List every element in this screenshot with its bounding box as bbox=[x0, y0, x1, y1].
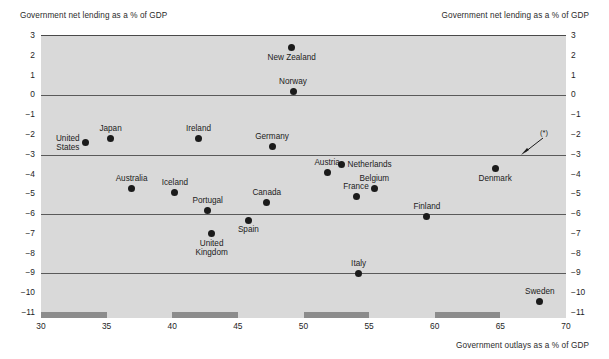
y-axis-caption-left: Government net lending as a % of GDP bbox=[20, 11, 167, 20]
y-tick-right--10: −10 bbox=[571, 288, 597, 296]
footnote-marker: (*) bbox=[540, 128, 548, 137]
data-point-label: Finland bbox=[413, 202, 440, 211]
y-axis-caption-right: Government net lending as a % of GDP bbox=[442, 11, 589, 20]
y-tick-left--5: −5 bbox=[9, 189, 35, 197]
y-tick-right--7: −7 bbox=[571, 229, 597, 237]
y-tick-left--2: −2 bbox=[9, 130, 35, 138]
data-point[interactable] bbox=[171, 189, 178, 196]
data-point[interactable] bbox=[324, 169, 331, 176]
axis-band-segment-0 bbox=[41, 312, 107, 318]
y-tick-left--10: −10 bbox=[9, 288, 35, 296]
data-point-label: Austria bbox=[314, 158, 339, 167]
data-point[interactable] bbox=[371, 185, 378, 192]
gridline--3 bbox=[41, 155, 566, 156]
y-tick-right--11: −11 bbox=[571, 308, 597, 316]
data-point-label: Spain bbox=[238, 225, 259, 234]
data-point-label: Norway bbox=[279, 77, 307, 86]
data-point-label: Iceland bbox=[162, 178, 188, 187]
data-point[interactable] bbox=[107, 135, 114, 142]
x-tick-30: 30 bbox=[26, 322, 56, 330]
axis-band-segment-2 bbox=[304, 312, 370, 318]
data-point[interactable] bbox=[128, 185, 135, 192]
y-tick-right--2: −2 bbox=[571, 130, 597, 138]
y-tick-left--11: −11 bbox=[9, 308, 35, 316]
data-point[interactable] bbox=[263, 199, 270, 206]
footnote-arrow-icon bbox=[519, 137, 545, 157]
plot-area: UnitedStatesJapanAustraliaIcelandIreland… bbox=[41, 35, 566, 312]
y-tick-left-0: 0 bbox=[9, 90, 35, 98]
data-point[interactable] bbox=[423, 213, 430, 220]
data-point-label: Portugal bbox=[192, 196, 223, 205]
data-point-label: UnitedStates bbox=[56, 134, 80, 153]
data-point[interactable] bbox=[355, 270, 362, 277]
x-tick-65: 65 bbox=[485, 322, 515, 330]
data-point-label: New Zealand bbox=[268, 53, 316, 62]
data-point[interactable] bbox=[492, 165, 499, 172]
data-point-label: Netherlands bbox=[348, 160, 392, 169]
data-point[interactable] bbox=[288, 44, 295, 51]
data-point-label: Japan bbox=[99, 124, 121, 133]
y-tick-left--9: −9 bbox=[9, 268, 35, 276]
y-tick-right-1: 1 bbox=[571, 71, 597, 79]
x-tick-35: 35 bbox=[92, 322, 122, 330]
data-point-label: Australia bbox=[116, 174, 148, 183]
scatter-chart: Government net lending as a % of GDP Gov… bbox=[0, 0, 609, 359]
y-tick-right-2: 2 bbox=[571, 51, 597, 59]
y-tick-right-0: 0 bbox=[571, 90, 597, 98]
y-tick-right--3: −3 bbox=[571, 150, 597, 158]
y-tick-left--8: −8 bbox=[9, 249, 35, 257]
y-tick-right--5: −5 bbox=[571, 189, 597, 197]
x-tick-40: 40 bbox=[157, 322, 187, 330]
data-point-label: Denmark bbox=[479, 174, 512, 183]
data-point-label: Belgium bbox=[360, 174, 390, 183]
x-tick-50: 50 bbox=[289, 322, 319, 330]
data-point[interactable] bbox=[82, 139, 89, 146]
y-tick-right--9: −9 bbox=[571, 268, 597, 276]
axis-band-segment-3 bbox=[435, 312, 501, 318]
y-tick-left--4: −4 bbox=[9, 170, 35, 178]
x-tick-70: 70 bbox=[551, 322, 581, 330]
data-point-label: Canada bbox=[252, 188, 281, 197]
y-tick-left-2: 2 bbox=[9, 51, 35, 59]
y-tick-left--7: −7 bbox=[9, 229, 35, 237]
data-point-label: Ireland bbox=[186, 124, 211, 133]
data-point[interactable] bbox=[338, 161, 345, 168]
data-point[interactable] bbox=[208, 230, 215, 237]
data-point-label: Italy bbox=[351, 259, 366, 268]
data-point-label: Germany bbox=[255, 132, 289, 141]
y-tick-right--1: −1 bbox=[571, 110, 597, 118]
y-tick-right--8: −8 bbox=[571, 249, 597, 257]
x-axis-caption: Government outlays as a % of GDP bbox=[456, 341, 589, 350]
x-tick-45: 45 bbox=[223, 322, 253, 330]
x-axis-band bbox=[41, 312, 566, 318]
data-point[interactable] bbox=[269, 143, 276, 150]
y-tick-right--4: −4 bbox=[571, 170, 597, 178]
gridline--9 bbox=[41, 273, 566, 274]
data-point[interactable] bbox=[204, 207, 211, 214]
gridline-0 bbox=[41, 95, 566, 96]
x-tick-55: 55 bbox=[354, 322, 384, 330]
data-point[interactable] bbox=[353, 193, 360, 200]
y-tick-right--6: −6 bbox=[571, 209, 597, 217]
data-point[interactable] bbox=[290, 88, 297, 95]
y-tick-left--3: −3 bbox=[9, 150, 35, 158]
y-tick-left-3: 3 bbox=[9, 31, 35, 39]
y-tick-left--6: −6 bbox=[9, 209, 35, 217]
gridline--6 bbox=[41, 214, 566, 215]
data-point[interactable] bbox=[536, 298, 543, 305]
y-tick-left--1: −1 bbox=[9, 110, 35, 118]
x-tick-60: 60 bbox=[420, 322, 450, 330]
data-point-label: Sweden bbox=[525, 287, 555, 296]
axis-band-segment-1 bbox=[172, 312, 238, 318]
y-tick-left-1: 1 bbox=[9, 71, 35, 79]
data-point-label: UnitedKingdom bbox=[195, 239, 227, 258]
y-tick-right-3: 3 bbox=[571, 31, 597, 39]
data-point[interactable] bbox=[245, 217, 252, 224]
data-point[interactable] bbox=[195, 135, 202, 142]
